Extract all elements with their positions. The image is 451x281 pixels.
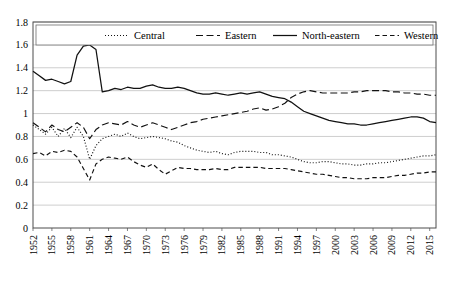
line-chart: 00.20.40.60.811.21.41.61.8 1952195519581…	[0, 0, 451, 281]
x-tick-label: 1970	[141, 235, 152, 255]
x-tick-label: 1982	[216, 235, 227, 255]
x-tick-label: 1994	[292, 235, 303, 255]
x-axis-tick-labels: 1952195519581961196419671970197319761979…	[28, 228, 436, 255]
x-tick-label: 1958	[65, 235, 76, 255]
y-tick-label: 0	[23, 223, 28, 234]
y-tick-label: 0.8	[16, 131, 29, 142]
x-tick-label: 1961	[84, 235, 95, 255]
y-tick-label: 1	[23, 108, 28, 119]
chart-legend: CentralEasternNorth-easternWestern	[36, 25, 439, 45]
x-tick-label: 1973	[160, 235, 171, 255]
x-tick-label: 1964	[103, 235, 114, 255]
x-tick-label: 1952	[28, 235, 39, 255]
x-tick-label: 1955	[46, 235, 57, 255]
y-axis-tick-labels: 00.20.40.60.811.21.41.61.8	[16, 17, 29, 234]
y-tick-label: 1.2	[16, 85, 29, 96]
x-tick-label: 2000	[330, 235, 341, 255]
plot-frame	[33, 22, 436, 228]
y-tick-label: 0.6	[16, 154, 29, 165]
x-tick-label: 2009	[386, 235, 397, 255]
x-tick-label: 2006	[368, 235, 379, 255]
series-line-western	[33, 150, 436, 180]
chart-canvas: 00.20.40.60.811.21.41.61.8 1952195519581…	[0, 0, 451, 281]
x-tick-label: 1991	[273, 235, 284, 255]
legend-label-western: Western	[404, 30, 439, 41]
x-tick-label: 1976	[179, 235, 190, 255]
x-tick-label: 1997	[311, 235, 322, 255]
x-tick-label: 1967	[122, 235, 133, 255]
x-tick-label: 1985	[235, 235, 246, 255]
y-tick-label: 1.4	[16, 62, 29, 73]
legend-label-north-eastern: North-eastern	[302, 30, 360, 41]
y-tick-label: 1.8	[16, 17, 29, 28]
y-tick-label: 0.4	[16, 177, 29, 188]
x-tick-label: 2003	[349, 235, 360, 255]
y-tick-label: 0.2	[16, 200, 29, 211]
legend-label-central: Central	[134, 30, 165, 41]
legend-label-eastern: Eastern	[225, 30, 257, 41]
x-tick-label: 2012	[405, 235, 416, 255]
y-tick-label: 1.6	[16, 39, 29, 50]
x-tick-label: 1988	[254, 235, 265, 255]
series-line-eastern	[33, 91, 436, 139]
x-tick-label: 1979	[198, 235, 209, 255]
x-tick-label: 2015	[424, 235, 435, 255]
